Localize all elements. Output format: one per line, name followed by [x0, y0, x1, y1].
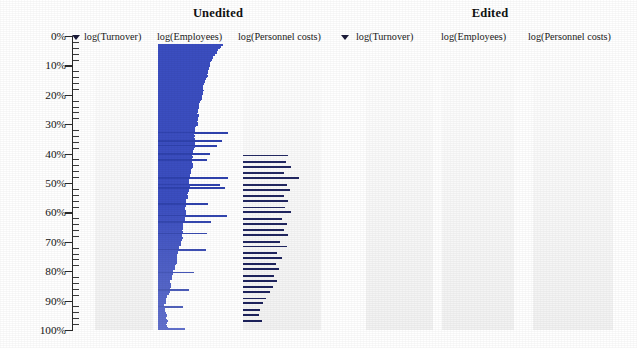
triangle-down-icon: [72, 35, 80, 40]
group-title-unedited: Unedited: [118, 6, 318, 21]
y-axis-minor-tick: [73, 295, 79, 296]
y-axis-minor-tick: [73, 201, 79, 202]
y-axis-minor-tick: [73, 318, 79, 319]
y-axis-minor-tick: [73, 177, 79, 178]
panel-bars: [533, 44, 613, 330]
y-axis-tick-label: 40%: [45, 148, 66, 160]
value-bar: [95, 328, 107, 330]
y-axis-minor-tick: [73, 224, 79, 225]
y-axis-minor-tick: [73, 142, 79, 143]
y-axis-minor-tick: [73, 312, 79, 313]
panel-label-edited-employees: log(Employees): [441, 31, 506, 42]
y-axis-minor-tick: [73, 118, 79, 119]
y-axis-major-tick: [65, 242, 73, 243]
y-axis-minor-tick: [73, 236, 79, 237]
panel-label-unedited-turnover: log(Turnover): [84, 31, 141, 42]
y-axis-minor-tick: [73, 83, 79, 84]
y-axis-minor-tick: [73, 148, 79, 149]
triangle-down-icon: [341, 35, 349, 40]
y-axis-tick-label: 90%: [45, 295, 66, 307]
y-axis-minor-tick: [73, 101, 79, 102]
panel-unedited-personnel: [243, 44, 321, 330]
y-axis-minor-tick: [73, 189, 79, 190]
y-axis-minor-tick: [73, 159, 79, 160]
y-axis-tick-label: 0%: [51, 30, 66, 42]
panel-bars: [158, 44, 228, 330]
y-axis-major-tick: [65, 65, 73, 66]
y-axis-minor-tick: [73, 254, 79, 255]
y-axis-major-tick: [65, 154, 73, 155]
y-axis-minor-tick: [73, 324, 79, 325]
panel-bars: [95, 44, 153, 330]
y-axis-minor-tick: [73, 207, 79, 208]
panel-unedited-turnover: [95, 44, 153, 330]
panel-edited-turnover: [366, 44, 433, 330]
y-axis-major-tick: [65, 301, 73, 302]
value-bar: [442, 328, 464, 330]
y-axis-minor-tick: [73, 77, 79, 78]
y-axis-minor-tick: [73, 248, 79, 249]
value-bar: [158, 328, 185, 330]
y-axis-major-tick: [65, 212, 73, 213]
y-axis: 0%10%20%30%40%50%60%70%80%90%100%: [0, 36, 90, 330]
group-title-edited: Edited: [390, 6, 590, 21]
y-axis-tick-label: 20%: [45, 89, 66, 101]
y-axis-minor-tick: [73, 60, 79, 61]
figure-canvas: Unedited Edited 0%10%20%30%40%50%60%70%8…: [0, 0, 637, 348]
y-axis-major-tick: [65, 124, 73, 125]
y-axis-minor-tick: [73, 71, 79, 72]
y-axis-minor-tick: [73, 306, 79, 307]
y-axis-tick-label: 50%: [45, 177, 66, 189]
y-axis-minor-tick: [73, 136, 79, 137]
y-axis-major-tick: [65, 271, 73, 272]
y-axis-minor-tick: [73, 89, 79, 90]
y-axis-tick-label: 30%: [45, 118, 66, 130]
y-axis-minor-tick: [73, 48, 79, 49]
y-axis-minor-tick: [73, 130, 79, 131]
y-axis-minor-tick: [73, 277, 79, 278]
y-axis-minor-tick: [73, 259, 79, 260]
y-axis-tick-label: 80%: [45, 265, 66, 277]
y-axis-major-tick: [65, 183, 73, 184]
y-axis-major-tick: [65, 330, 73, 331]
y-axis-minor-tick: [73, 42, 79, 43]
panel-unedited-employees: [158, 44, 228, 330]
panel-label-edited-turnover: log(Turnover): [356, 31, 413, 42]
y-axis-tick-label: 100%: [40, 324, 66, 336]
y-axis-minor-tick: [73, 265, 79, 266]
panel-edited-employees: [442, 44, 514, 330]
value-bar: [366, 328, 374, 330]
y-axis-minor-tick: [73, 107, 79, 108]
y-axis-minor-tick: [73, 112, 79, 113]
panel-label-edited-personnel: log(Personnel costs): [528, 31, 611, 42]
y-axis-minor-tick: [73, 171, 79, 172]
panel-label-unedited-employees: log(Employees): [157, 31, 222, 42]
y-axis-minor-tick: [73, 218, 79, 219]
y-axis-minor-tick: [73, 195, 79, 196]
y-axis-tick-label: 10%: [45, 59, 66, 71]
y-axis-major-tick: [65, 95, 73, 96]
y-axis-minor-tick: [73, 283, 79, 284]
value-bar: [243, 328, 271, 330]
panel-bars: [243, 44, 321, 330]
y-axis-minor-tick: [73, 230, 79, 231]
y-axis-tick-label: 60%: [45, 206, 66, 218]
value-bar: [533, 328, 555, 330]
panel-edited-personnel: [533, 44, 613, 330]
panel-bars: [366, 44, 433, 330]
y-axis-minor-tick: [73, 289, 79, 290]
y-axis-minor-tick: [73, 54, 79, 55]
y-axis-tick-label: 70%: [45, 236, 66, 248]
panel-label-unedited-personnel: log(Personnel costs): [238, 31, 321, 42]
panel-bars: [442, 44, 514, 330]
y-axis-minor-tick: [73, 165, 79, 166]
